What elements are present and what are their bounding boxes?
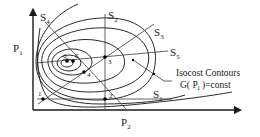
point-label-5: 5 — [75, 52, 79, 60]
point-label-4: 4 — [87, 71, 91, 79]
point-4 — [82, 70, 86, 74]
x-axis-label: P2 — [121, 116, 131, 131]
point-label-3: 3 — [108, 58, 112, 66]
point-label-6: 6 — [63, 52, 67, 60]
label-s2: S2 — [108, 9, 118, 24]
point-1 — [41, 97, 45, 101]
contour-6 — [37, 18, 155, 100]
annotation-formula: G( Pi )=const — [180, 80, 231, 92]
point-label-2: 2 — [109, 92, 113, 100]
label-s4: S4 — [40, 11, 50, 26]
annotation-title: Isocost Contours — [176, 68, 240, 78]
annotation-pointer — [132, 59, 172, 81]
label-s5: S5 — [170, 46, 180, 61]
label-s3: S3 — [154, 26, 164, 41]
search-points: 1 2 3 4 5 6 — [38, 52, 113, 101]
point-label-1: 1 — [38, 90, 42, 98]
y-axis-label: P1 — [13, 42, 23, 57]
point-3 — [103, 55, 107, 59]
point-2 — [103, 97, 107, 101]
isocost-contour-diagram: S1 S2 S3 S4 S5 1 2 3 4 5 6 Isocost Conto… — [0, 0, 260, 137]
